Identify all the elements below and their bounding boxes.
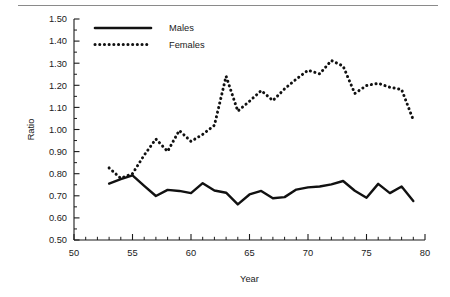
y-tick-label: 0.90 bbox=[49, 147, 67, 157]
x-tick-label: 60 bbox=[186, 248, 196, 258]
chart-legend: MalesFemales bbox=[95, 23, 205, 50]
series-line-males bbox=[109, 175, 413, 204]
x-axis-tick-labels: 50556065707580 bbox=[69, 248, 430, 258]
y-tick-label: 1.20 bbox=[49, 81, 67, 91]
x-axis-ticks bbox=[74, 234, 425, 240]
series-line-females bbox=[109, 61, 413, 179]
legend-label-females: Females bbox=[169, 40, 205, 50]
x-axis-title: Year bbox=[240, 274, 259, 284]
x-tick-label: 65 bbox=[244, 248, 254, 258]
y-axis-ticks bbox=[74, 19, 80, 240]
x-tick-label: 75 bbox=[361, 248, 371, 258]
x-tick-label: 55 bbox=[127, 248, 137, 258]
y-tick-label: 1.10 bbox=[49, 103, 67, 113]
x-tick-label: 70 bbox=[303, 248, 313, 258]
y-tick-label: 0.80 bbox=[49, 169, 67, 179]
line-chart: 0.500.600.700.800.901.001.101.201.301.40… bbox=[0, 0, 450, 297]
y-tick-label: 1.50 bbox=[49, 14, 67, 24]
y-tick-label: 1.30 bbox=[49, 59, 67, 69]
y-tick-label: 1.40 bbox=[49, 36, 67, 46]
y-axis-title: Ratio bbox=[26, 119, 36, 141]
x-tick-label: 80 bbox=[420, 248, 430, 258]
data-series-group bbox=[109, 61, 413, 205]
y-tick-label: 0.60 bbox=[49, 213, 67, 223]
x-tick-label: 50 bbox=[69, 248, 79, 258]
y-tick-label: 1.00 bbox=[49, 125, 67, 135]
y-tick-label: 0.50 bbox=[49, 235, 67, 245]
chart-figure: 0.500.600.700.800.901.001.101.201.301.40… bbox=[0, 0, 450, 297]
legend-label-males: Males bbox=[169, 23, 194, 33]
y-tick-label: 0.70 bbox=[49, 191, 67, 201]
y-axis-tick-labels: 0.500.600.700.800.901.001.101.201.301.40… bbox=[49, 14, 67, 245]
